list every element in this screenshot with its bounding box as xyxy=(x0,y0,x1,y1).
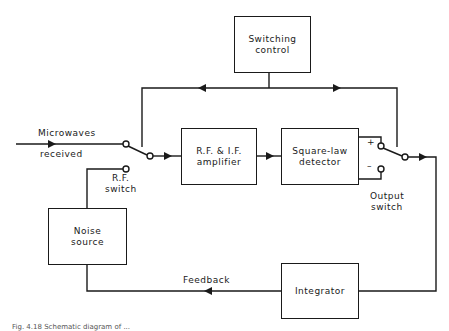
square-law-detector-line1: Square-law xyxy=(292,146,347,157)
noise-source-line2: source xyxy=(71,237,104,248)
integrator-label: Integrator xyxy=(295,286,345,297)
output-switch-blade xyxy=(383,148,402,156)
output-switch-label-line1: Output xyxy=(370,191,404,202)
output-switch-pivot xyxy=(402,154,408,160)
square-law-detector-line2: detector xyxy=(292,157,347,168)
figure-caption: Fig. 4.18 Schematic diagram of ... xyxy=(12,323,130,331)
rf-switch-pivot xyxy=(147,153,153,159)
output-switch-label-line2: switch xyxy=(371,202,403,213)
input-arrow-icon xyxy=(48,140,56,148)
rf-if-amplifier-block: R.F. & I.F. amplifier xyxy=(181,128,257,185)
received-label: received xyxy=(40,149,83,160)
noise-source-line1: Noise xyxy=(71,226,104,237)
square-law-detector-block: Square-law detector xyxy=(281,128,359,185)
plus-label: + xyxy=(367,137,375,148)
feedback-label: Feedback xyxy=(183,275,230,286)
switching-control-line1: Switching xyxy=(248,34,296,45)
rf-switch-blade xyxy=(128,146,147,155)
switching-control-line2: control xyxy=(248,45,296,56)
microwaves-label: Microwaves xyxy=(38,128,96,139)
integrator-block: Integrator xyxy=(281,263,359,319)
rf-switch-label-line2: switch xyxy=(105,184,137,195)
rf-if-amplifier-line2: amplifier xyxy=(196,157,242,168)
output-switch-minus-contact xyxy=(378,166,384,172)
noise-source-block: Noise source xyxy=(48,208,127,265)
switching-control-block: Switching control xyxy=(234,16,311,73)
rf-switch-label-line1: R.F. xyxy=(112,173,129,184)
rf-if-amplifier-line1: R.F. & I.F. xyxy=(196,146,242,157)
rf-switch-contact-bottom xyxy=(123,166,129,172)
minus-label: – xyxy=(367,161,372,172)
